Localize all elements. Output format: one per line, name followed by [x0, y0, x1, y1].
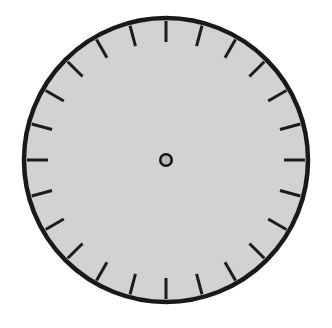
dial-stage	[0, 0, 332, 328]
clock-dial-graphic	[0, 0, 332, 328]
center-hub-fill	[162, 156, 171, 165]
